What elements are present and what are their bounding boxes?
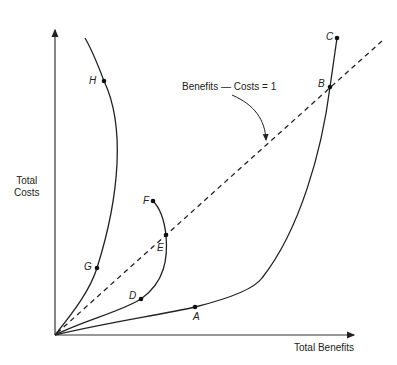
point-label-a: A bbox=[193, 311, 200, 322]
curve-def bbox=[55, 201, 167, 335]
x-axis-label: Total Benefits bbox=[294, 342, 354, 353]
y-axis-label-line1: Total bbox=[14, 175, 40, 187]
y-axis-label: Total Costs bbox=[14, 175, 40, 199]
curve-gh bbox=[55, 38, 117, 335]
point-label-g: G bbox=[84, 261, 92, 272]
annotation-label: Benefits — Costs = 1 bbox=[182, 81, 276, 92]
annotation-arrow bbox=[232, 95, 266, 140]
data-points bbox=[95, 36, 340, 310]
point-label-b: B bbox=[318, 78, 325, 89]
point-label-h: H bbox=[89, 75, 96, 86]
point-label-c: C bbox=[326, 31, 333, 42]
point-label-e: E bbox=[157, 242, 164, 253]
point-label-d: D bbox=[129, 290, 136, 301]
y-axis-label-line2: Costs bbox=[14, 187, 40, 199]
point-label-f: F bbox=[143, 195, 149, 206]
